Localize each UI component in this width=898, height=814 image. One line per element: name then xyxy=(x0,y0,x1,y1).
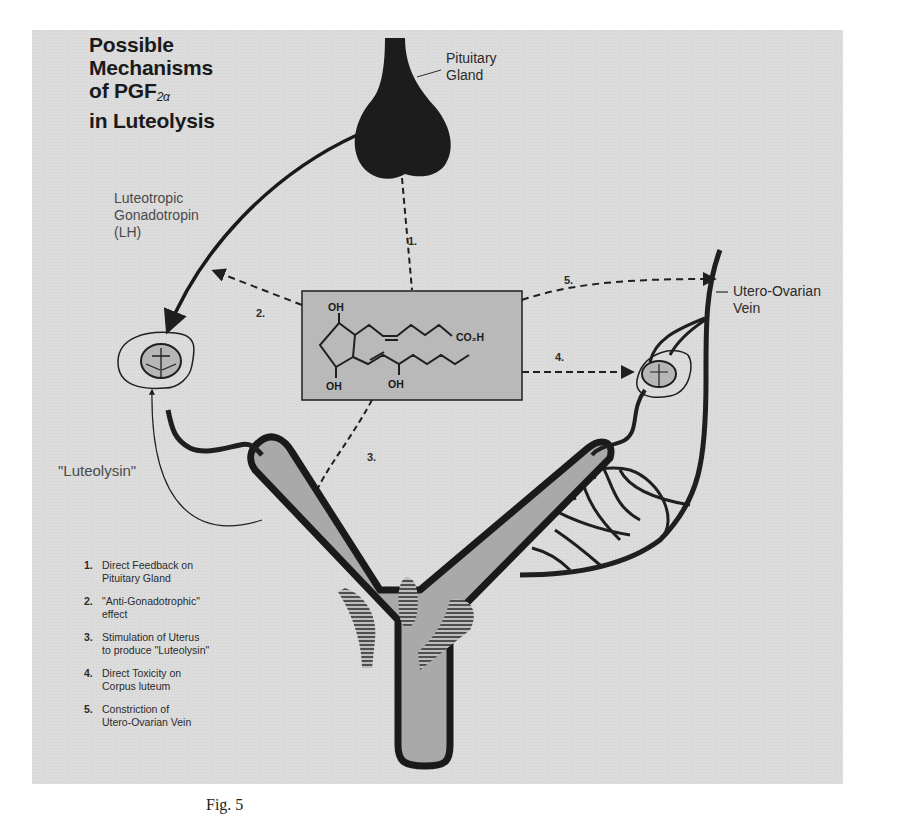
legend-line: "Anti-Gonadotrophic" xyxy=(102,595,200,607)
utero-ovarian-vein-label: Utero-Ovarian Vein xyxy=(733,283,821,317)
lh-label-line2: Gonadotropin xyxy=(114,207,199,224)
legend-text: Direct Toxicity onCorpus luteum xyxy=(102,667,181,693)
legend-line: to produce "Luteolysin" xyxy=(102,644,209,656)
arrow-1 xyxy=(402,178,412,290)
arrow-number-1: 1. xyxy=(408,235,417,247)
utero-ovarian-vein xyxy=(520,250,720,575)
title-line-2: Mechanisms xyxy=(89,56,215,79)
legend-item-2: 2. "Anti-Gonadotrophic"effect xyxy=(84,595,304,621)
legend-number: 2. xyxy=(84,595,102,621)
arrow-2 xyxy=(214,271,302,305)
uterus xyxy=(251,437,611,766)
pgf2a-structure: OH OH OH CO₂H xyxy=(302,291,522,400)
title-line-1: Possible xyxy=(89,33,215,56)
co2h-label: CO₂H xyxy=(456,331,484,343)
title-subscript: 2α xyxy=(157,90,170,104)
legend-line: effect xyxy=(102,608,128,620)
arrow-5 xyxy=(522,279,714,300)
figure-caption: Fig. 5 xyxy=(206,796,243,814)
legend-line: Stimulation of Uterus xyxy=(102,631,199,643)
left-ovary xyxy=(118,332,194,388)
vein-label-line1: Utero-Ovarian xyxy=(733,283,821,300)
title-pgf: of PGF xyxy=(89,79,157,102)
mechanism-legend: 1. Direct Feedback onPituitary Gland 2. … xyxy=(84,559,304,739)
legend-number: 5. xyxy=(84,703,102,729)
legend-line: Corpus luteum xyxy=(102,680,170,692)
legend-item-4: 4. Direct Toxicity onCorpus luteum xyxy=(84,667,304,693)
legend-item-5: 5. Constriction ofUtero-Ovarian Vein xyxy=(84,703,304,729)
pituitary-gland-label: Pituitary Gland xyxy=(446,50,497,84)
arrow-number-5: 5. xyxy=(564,274,573,286)
lh-label-line3: (LH) xyxy=(114,224,199,241)
legend-number: 3. xyxy=(84,631,102,657)
legend-text: Direct Feedback onPituitary Gland xyxy=(102,559,193,585)
pituitary-leader-line xyxy=(417,70,441,77)
arrow-number-3: 3. xyxy=(367,451,376,463)
figure-title: Possible Mechanisms of PGF2α in Luteolys… xyxy=(89,33,215,132)
legend-line: Utero-Ovarian Vein xyxy=(102,716,191,728)
legend-item-1: 1. Direct Feedback onPituitary Gland xyxy=(84,559,304,585)
legend-item-3: 3. Stimulation of Uterusto produce "Lute… xyxy=(84,631,304,657)
legend-text: Constriction ofUtero-Ovarian Vein xyxy=(102,703,191,729)
arrow-number-4: 4. xyxy=(555,351,564,363)
legend-line: Direct Feedback on xyxy=(102,559,193,571)
pituitary-label-line1: Pituitary xyxy=(446,50,497,67)
pituitary-label-line2: Gland xyxy=(446,67,497,84)
pituitary-gland-icon xyxy=(355,38,451,179)
oh-label-top: OH xyxy=(328,301,344,313)
title-line-3: of PGF2α xyxy=(89,79,215,109)
legend-text: Stimulation of Uterusto produce "Luteoly… xyxy=(102,631,209,657)
legend-text: "Anti-Gonadotrophic"effect xyxy=(102,595,200,621)
legend-line: Direct Toxicity on xyxy=(102,667,181,679)
left-fallopian-tube xyxy=(168,410,262,455)
vein-label-line2: Vein xyxy=(733,300,821,317)
luteolysin-label: "Luteolysin" xyxy=(58,462,136,479)
legend-number: 1. xyxy=(84,559,102,585)
oh-label-bottom-left: OH xyxy=(326,380,342,392)
oh-label-bottom: OH xyxy=(388,378,404,390)
arrow-number-2: 2. xyxy=(256,307,265,319)
lh-label: Luteotropic Gonadotropin (LH) xyxy=(114,190,199,241)
lh-label-line1: Luteotropic xyxy=(114,190,199,207)
legend-number: 4. xyxy=(84,667,102,693)
legend-line: Constriction of xyxy=(102,703,169,715)
title-line-4: in Luteolysis xyxy=(89,109,215,132)
legend-line: Pituitary Gland xyxy=(102,572,171,584)
right-ovary xyxy=(637,318,705,397)
